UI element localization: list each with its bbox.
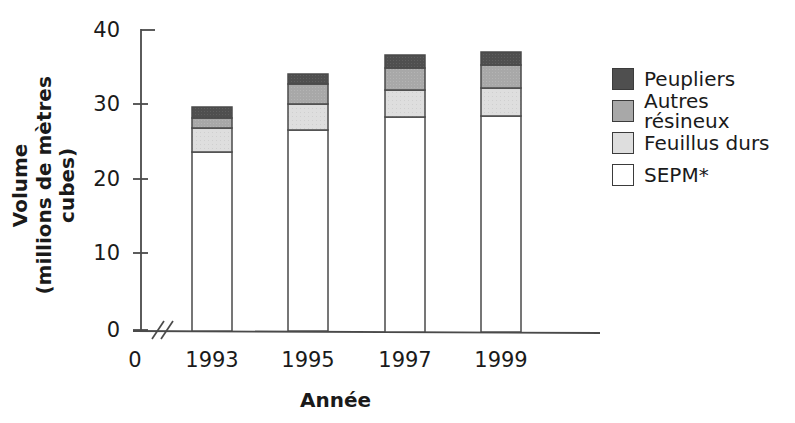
y-tick-label-30: 30 <box>74 92 120 116</box>
x-tick-label-1999: 1999 <box>456 348 546 372</box>
x-axis-title: Année <box>300 388 371 412</box>
bar-1995 <box>288 74 328 331</box>
legend-item-sepm: SEPM* <box>612 160 795 190</box>
y-tick-label-10: 10 <box>74 241 120 265</box>
bar-1997 <box>385 55 425 332</box>
bar-1997-segment-feuillus-durs <box>385 90 425 117</box>
axis-break-icon <box>152 321 173 339</box>
y-axis-title: Volume (millions de mètres cubes) <box>9 75 80 295</box>
bar-1999-segment-feuillus-durs <box>481 88 521 116</box>
bar-1999-segment-peupliers <box>481 52 521 65</box>
y-axis-title-line-2: (millions de mètres cubes) <box>32 75 79 295</box>
y-axis-ticks <box>133 30 155 330</box>
chart-legend: Peupliers Autres résineux Feuillus durs … <box>612 64 795 192</box>
legend-item-autres-resineux: Autres résineux <box>612 96 795 126</box>
x-tick-label-1995: 1995 <box>263 348 353 372</box>
y-axis-title-line-1: Volume <box>9 75 33 295</box>
bar-1993-segment-peupliers <box>192 107 232 118</box>
bar-1997-segment-sepm <box>385 117 425 332</box>
bar-1995-segment-autres-resineux <box>288 84 328 104</box>
bar-1999-segment-sepm <box>481 116 521 332</box>
legend-label-autres-resineux: Autres résineux <box>644 91 795 131</box>
x-tick-label-1993: 1993 <box>167 348 257 372</box>
bar-1993 <box>192 107 232 331</box>
legend-swatch-peupliers <box>612 68 634 90</box>
legend-swatch-feuillus-durs <box>612 132 634 154</box>
y-tick-label-40: 40 <box>74 18 120 42</box>
bar-1999 <box>481 52 521 332</box>
legend-swatch-autres-resineux <box>612 100 634 122</box>
y-tick-label-0: 0 <box>74 318 120 342</box>
y-tick-label-20: 20 <box>74 167 120 191</box>
legend-label-sepm: SEPM* <box>644 165 709 185</box>
bar-1993-segment-autres-resineux <box>192 118 232 128</box>
stacked-bar-chart-figure: 40 30 20 10 0 0 1993 1995 1997 1999 Anné… <box>0 0 795 423</box>
legend-label-peupliers: Peupliers <box>644 69 735 89</box>
bar-1995-segment-peupliers <box>288 74 328 84</box>
bar-1993-segment-sepm <box>192 152 232 331</box>
legend-label-feuillus-durs: Feuillus durs <box>644 133 770 153</box>
legend-item-feuillus-durs: Feuillus durs <box>612 128 795 158</box>
bar-1997-segment-autres-resineux <box>385 68 425 90</box>
bar-1995-segment-sepm <box>288 130 328 331</box>
legend-swatch-sepm <box>612 164 634 186</box>
bar-1997-segment-peupliers <box>385 55 425 68</box>
x-tick-label-1997: 1997 <box>360 348 450 372</box>
bar-1993-segment-feuillus-durs <box>192 128 232 152</box>
bar-1995-segment-feuillus-durs <box>288 104 328 130</box>
bar-1999-segment-autres-resineux <box>481 65 521 88</box>
